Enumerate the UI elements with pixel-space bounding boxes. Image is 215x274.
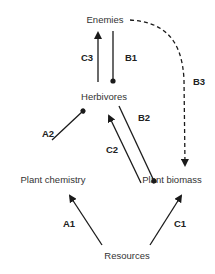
edge-label-b3: B3 (193, 76, 205, 87)
interaction-diagram: Enemies Herbivores Plant chemistry Plant… (0, 0, 215, 274)
edge-label-a2: A2 (42, 128, 54, 139)
node-plant-chemistry: Plant chemistry (21, 174, 86, 185)
edge-b3-dashed-arrow (130, 20, 185, 165)
node-herbivores: Herbivores (81, 91, 127, 102)
edge-label-c2: C2 (106, 144, 118, 155)
edge-a2-line (52, 111, 83, 140)
edge-label-b1: B1 (125, 52, 138, 63)
edge-label-a1: A1 (63, 218, 76, 229)
edge-label-c3: C3 (81, 52, 93, 63)
edge-label-c1: C1 (174, 218, 187, 229)
edge-label-b2: B2 (138, 112, 150, 123)
node-resources: Resources (104, 250, 150, 261)
node-enemies: Enemies (87, 14, 124, 25)
